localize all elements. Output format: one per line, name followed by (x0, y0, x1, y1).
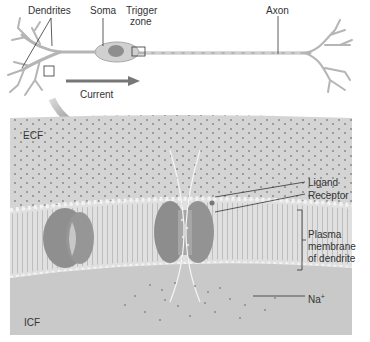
label-current: Current (80, 89, 113, 100)
label-ligand: Ligand (308, 177, 338, 188)
label-soma: Soma (90, 5, 116, 16)
label-membrane-1: Plasma (308, 229, 341, 240)
membrane-detail (10, 115, 352, 335)
neuron (8, 18, 352, 95)
label-dendrites: Dendrites (28, 5, 71, 16)
label-ecf: ECF (23, 130, 43, 141)
label-axon: Axon (266, 5, 289, 16)
ion-channel-closed (43, 208, 94, 268)
label-trigger-zone-1: Trigger (126, 5, 157, 16)
label-membrane-2: membrane (308, 241, 356, 252)
label-trigger-zone-2: zone (130, 16, 152, 27)
label-receptor: Receptor (308, 190, 349, 201)
label-na-charge: + (321, 293, 325, 300)
label-icf: ICF (24, 317, 40, 328)
label-membrane-3: of dendrite (308, 253, 355, 264)
current-arrow (66, 76, 140, 86)
label-na: Na (308, 294, 321, 305)
label-sodium-ion: Na+ (308, 291, 325, 305)
